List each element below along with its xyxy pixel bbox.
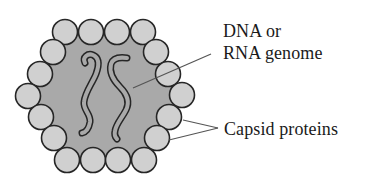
capsomere <box>81 148 106 173</box>
capsomere <box>156 62 181 87</box>
capsomere <box>55 148 80 173</box>
virus-diagram <box>0 0 383 178</box>
capsomere <box>170 83 195 108</box>
leader-line-capsid-lower <box>169 128 218 140</box>
genome-label-line2: RNA genome <box>223 42 323 64</box>
capsomere <box>106 148 131 173</box>
capsid-proteins-label: Capsid proteins <box>224 118 338 140</box>
capsomere <box>105 20 130 45</box>
capsomere <box>79 20 104 45</box>
genome-label: DNA or RNA genome <box>223 20 323 64</box>
capsomere <box>42 126 67 151</box>
capsomere <box>145 126 170 151</box>
capsomere <box>132 148 157 173</box>
capsomere <box>41 40 66 65</box>
genome-label-line1: DNA or <box>223 20 323 42</box>
leader-line-capsid-upper <box>183 120 218 128</box>
capsomere <box>28 62 53 87</box>
capsomere <box>144 40 169 65</box>
